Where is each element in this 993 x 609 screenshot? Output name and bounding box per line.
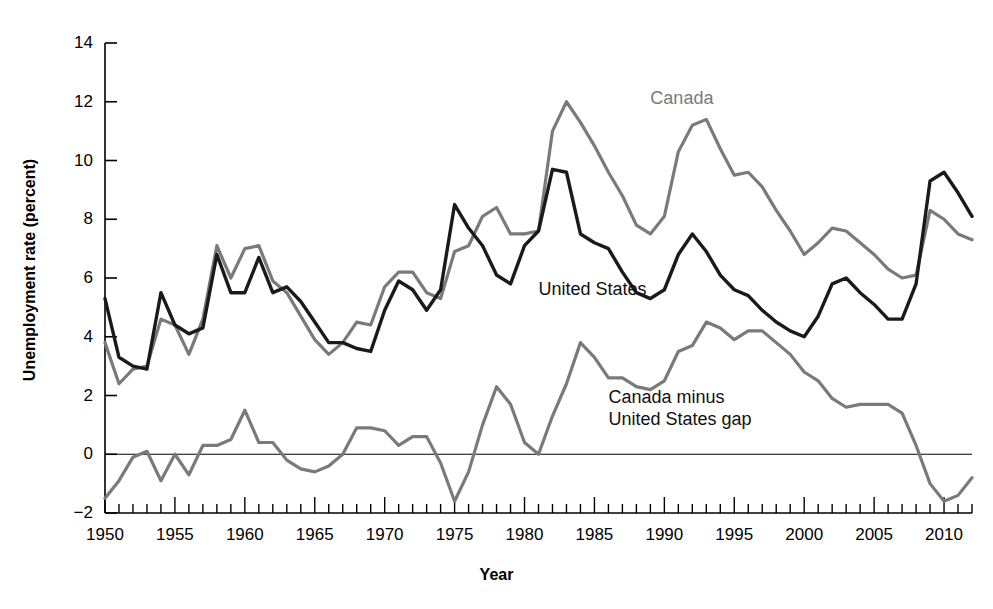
x-tick-label: 1955 — [156, 525, 194, 545]
x-axis-title-wrap: Year — [0, 566, 993, 584]
series-label-united-states: United States — [539, 279, 647, 300]
series-label-gap-line1: Canada minus — [608, 387, 751, 408]
x-tick-label: 2000 — [785, 525, 823, 545]
x-tick-label: 1975 — [436, 525, 474, 545]
series-line-canada — [105, 102, 972, 384]
x-tick-label: 2005 — [855, 525, 893, 545]
series-label-gap: Canada minus United States gap — [608, 387, 751, 429]
y-tick-label: −2 — [47, 503, 93, 523]
x-tick-label: 1990 — [645, 525, 683, 545]
y-tick-label: 0 — [47, 444, 93, 464]
x-tick-label: 1970 — [366, 525, 404, 545]
data-series-group — [105, 102, 972, 502]
chart-plot-area — [0, 0, 993, 609]
y-tick-label: 14 — [47, 33, 93, 53]
y-tick-label: 8 — [47, 209, 93, 229]
y-tick-label: 12 — [47, 92, 93, 112]
x-axis-title: Year — [480, 566, 514, 583]
x-tick-label: 1950 — [86, 525, 124, 545]
x-tick-label: 1980 — [506, 525, 544, 545]
x-tick-label: 1985 — [576, 525, 614, 545]
series-label-gap-line2: United States gap — [608, 409, 751, 430]
y-tick-label: 6 — [47, 268, 93, 288]
x-tick-label: 2010 — [925, 525, 963, 545]
y-axis-title-wrap: Unemployment rate (percent) — [10, 0, 50, 540]
x-tick-label: 1965 — [296, 525, 334, 545]
series-line-canada-minus-united-states-gap — [105, 322, 972, 501]
y-axis-title: Unemployment rate (percent) — [21, 159, 39, 381]
y-tick-label: 2 — [47, 386, 93, 406]
x-tick-label: 1995 — [715, 525, 753, 545]
y-tick-label: 4 — [47, 327, 93, 347]
y-tick-label: 10 — [47, 151, 93, 171]
series-label-canada: Canada — [650, 88, 713, 109]
x-tick-label: 1960 — [226, 525, 264, 545]
unemployment-rate-chart: −202468101214195019551960196519701975198… — [0, 0, 993, 609]
